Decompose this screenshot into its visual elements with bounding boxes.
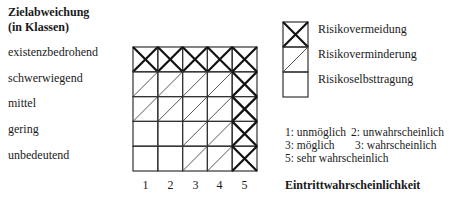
- scale-note-2: 2: unwahrscheinlich: [351, 126, 444, 139]
- legend-swatch-3: [283, 72, 308, 97]
- matrix-cell-r4-c2: [158, 121, 183, 146]
- legend-label-risikoselbsttragung: Risikoselbsttragung: [318, 72, 413, 87]
- column-label-2: 2: [158, 178, 183, 193]
- x-axis-title: Eintrittwahrscheinlichkeit: [285, 178, 420, 193]
- scale-note-3: 3: möglich: [285, 139, 335, 152]
- column-label-5: 5: [232, 178, 257, 193]
- matrix-cell-r5-c2: [158, 146, 183, 171]
- matrix-cell-r4-c1: [133, 121, 158, 146]
- column-label-1: 1: [133, 178, 158, 193]
- column-label-3: 3: [183, 178, 208, 193]
- matrix-cell-r5-c1: [133, 146, 158, 171]
- scale-note-5: 5: sehr wahrscheinlich: [285, 152, 388, 165]
- scale-note-4: 3: wahrscheinlich: [355, 139, 436, 152]
- scale-note-1: 1: unmöglich: [285, 126, 346, 139]
- legend-label-risikovermeidung: Risikovermeidung: [318, 22, 407, 37]
- column-label-4: 4: [207, 178, 232, 193]
- legend-label-risikoverminderung: Risikoverminderung: [318, 47, 417, 62]
